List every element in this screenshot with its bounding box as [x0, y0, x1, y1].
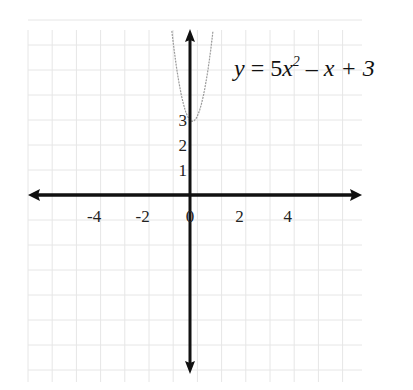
x-tick-labels: -4-2024 [87, 207, 292, 226]
parabola-graph: -4-2024 123 y = 5x2 – x + 3 [0, 0, 413, 390]
x-axis [28, 189, 362, 201]
parabola-path [172, 31, 213, 121]
parabola-curve [172, 31, 213, 121]
x-tick-label: -2 [136, 207, 150, 226]
equation-label: y = 5x2 – x + 3 [232, 54, 375, 81]
y-axis [185, 29, 195, 374]
x-tick-label: 4 [284, 207, 293, 226]
y-tick-label: 1 [179, 161, 188, 180]
y-tick-label: 3 [179, 111, 188, 130]
x-tick-label: -4 [87, 207, 102, 226]
x-tick-label: 2 [235, 207, 244, 226]
y-tick-labels: 123 [179, 111, 188, 180]
x-tick-label: 0 [186, 207, 195, 226]
y-tick-label: 2 [179, 136, 188, 155]
